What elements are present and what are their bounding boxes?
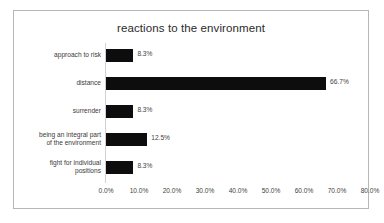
category-label: fight for individual positions — [13, 159, 101, 176]
bar-series: 8.3% 66.7% 8.3% 12.5% 8.3% — [106, 43, 370, 183]
category-label-line: surrender — [13, 107, 101, 115]
bar — [106, 161, 133, 174]
bar — [106, 49, 133, 62]
category-label: approach to risk — [13, 51, 101, 59]
bar-row: 8.3% — [106, 43, 370, 71]
category-label-line: fight for individual — [13, 159, 101, 167]
x-tick-label: 60.0% — [295, 187, 314, 194]
bar-row: 8.3% — [106, 155, 370, 183]
x-tick-label: 30.0% — [196, 187, 215, 194]
category-label: surrender — [13, 107, 101, 115]
category-label-line: being an integral part — [13, 131, 101, 139]
x-tick-label: 70.0% — [328, 187, 347, 194]
bar-row: 66.7% — [106, 71, 370, 99]
x-tick-label: 20.0% — [163, 187, 182, 194]
y-axis-category-labels: approach to risk distance surrender bein… — [14, 43, 105, 183]
bar — [106, 133, 147, 146]
chart-title: reactions to the environment — [14, 22, 368, 34]
bar — [106, 105, 133, 118]
category-label: being an integral part of the environmen… — [13, 131, 101, 148]
x-tick-label: 40.0% — [229, 187, 248, 194]
x-tick-label: 0.0% — [98, 187, 113, 194]
bar-value-label: 8.3% — [137, 162, 152, 169]
bar-value-label: 8.3% — [137, 50, 152, 57]
bar-row: 12.5% — [106, 127, 370, 155]
category-label-line: positions — [13, 167, 101, 175]
bar-value-label: 8.3% — [137, 106, 152, 113]
x-tick-label: 80.0% — [361, 187, 380, 194]
bar-value-label: 66.7% — [330, 78, 349, 85]
bar — [106, 77, 326, 90]
x-tick-label: 10.0% — [130, 187, 149, 194]
chart-container: reactions to the environment approach to… — [13, 10, 369, 209]
category-label: distance — [13, 79, 101, 87]
category-label-line: approach to risk — [13, 51, 101, 59]
plot-area: approach to risk distance surrender bein… — [14, 43, 370, 209]
x-axis-tick-labels: 0.0% 10.0% 20.0% 30.0% 40.0% 50.0% 60.0%… — [106, 183, 370, 201]
bar-row: 8.3% — [106, 99, 370, 127]
x-tick-label: 50.0% — [262, 187, 281, 194]
category-label-line: of the environment — [13, 139, 101, 147]
category-label-line: distance — [13, 79, 101, 87]
bar-value-label: 12.5% — [151, 134, 170, 141]
